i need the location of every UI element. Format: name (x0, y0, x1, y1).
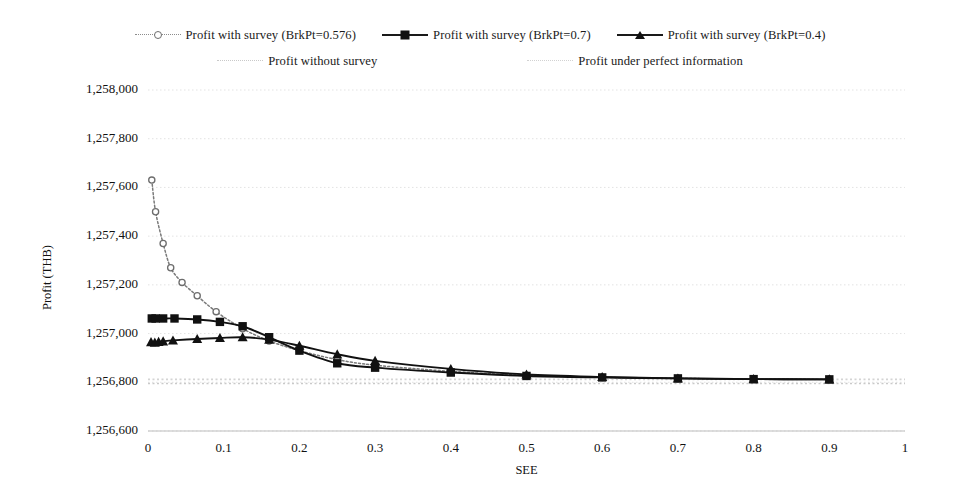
series-0 (149, 177, 833, 382)
data-series-layer (146, 177, 834, 384)
y-tick-label-4: 1,257,400 (0, 227, 138, 243)
x-tick-label-8: 0.8 (724, 440, 784, 456)
x-tick-label-4: 0.4 (421, 440, 481, 456)
data-point-marker (193, 315, 201, 323)
data-point-marker (179, 279, 185, 285)
x-tick-label-6: 0.6 (572, 440, 632, 456)
y-axis-title: Profit (THB) (40, 245, 55, 310)
x-tick-label-2: 0.2 (269, 440, 329, 456)
data-point-marker (149, 177, 155, 183)
x-tick-label-1: 0.1 (194, 440, 254, 456)
data-point-marker (160, 240, 166, 246)
plot-area: 1,256,6001,256,8001,257,0001,257,2001,25… (0, 0, 960, 504)
y-tick-label-0: 1,256,600 (0, 422, 138, 438)
data-point-marker (159, 314, 167, 322)
series-line-1 (152, 318, 830, 379)
x-axis-title: SEE (467, 463, 587, 478)
data-point-marker (216, 318, 224, 326)
data-point-marker (238, 322, 246, 330)
data-point-marker (333, 359, 341, 367)
x-tick-label-3: 0.3 (345, 440, 405, 456)
y-tick-label-5: 1,257,600 (0, 178, 138, 194)
chart-figure: Profit with survey (BrkPt=0.576) Profit … (0, 0, 960, 504)
data-point-marker (213, 309, 219, 315)
x-tick-label-0: 0 (118, 440, 178, 456)
data-point-marker (194, 293, 200, 299)
y-tick-label-2: 1,257,000 (0, 325, 138, 341)
data-point-marker (170, 314, 178, 322)
series-line-0 (152, 180, 830, 379)
data-point-marker (152, 209, 158, 215)
series-2 (146, 332, 834, 383)
y-tick-label-6: 1,257,800 (0, 130, 138, 146)
series-line-2 (151, 337, 829, 379)
x-tick-label-5: 0.5 (497, 440, 557, 456)
x-tick-label-7: 0.7 (648, 440, 708, 456)
y-tick-label-7: 1,258,000 (0, 81, 138, 97)
y-tick-label-1: 1,256,800 (0, 373, 138, 389)
x-tick-label-9: 0.9 (799, 440, 859, 456)
x-tick-label-10: 1 (875, 440, 935, 456)
y-tick-label-3: 1,257,200 (0, 276, 138, 292)
data-point-marker (151, 314, 159, 322)
plot-canvas (0, 0, 960, 504)
data-point-marker (168, 265, 174, 271)
